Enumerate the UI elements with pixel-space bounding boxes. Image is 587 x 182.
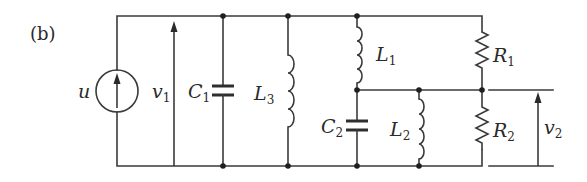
v2-label: v2 bbox=[544, 116, 562, 141]
voltage-arrow-v2 bbox=[535, 92, 542, 166]
junction-dot bbox=[416, 87, 422, 93]
junction-dot bbox=[285, 163, 291, 169]
l3-label: L3 bbox=[253, 82, 274, 107]
arrow-up-icon bbox=[114, 73, 121, 84]
v1-label: v1 bbox=[152, 80, 170, 105]
junction-dot bbox=[416, 163, 422, 169]
l2-label: L2 bbox=[389, 118, 410, 143]
current-source-u bbox=[96, 70, 138, 112]
arrow-up-icon bbox=[535, 92, 542, 103]
inductor-l1 bbox=[357, 16, 362, 90]
c2-label: C2 bbox=[321, 115, 343, 140]
r2-label: R2 bbox=[492, 119, 515, 144]
capacitor-c1 bbox=[212, 16, 234, 166]
resistor-r1 bbox=[476, 32, 488, 90]
top-rail bbox=[117, 16, 482, 70]
junction-dot bbox=[479, 87, 485, 93]
junction-dot bbox=[285, 13, 291, 19]
junction-dot bbox=[220, 163, 226, 169]
inductor-l2 bbox=[419, 90, 424, 166]
junction-dot bbox=[354, 13, 360, 19]
junction-dot bbox=[354, 163, 360, 169]
bottom-rail bbox=[117, 112, 482, 166]
voltage-arrow-v1 bbox=[171, 21, 178, 166]
c1-label: C1 bbox=[188, 80, 210, 105]
capacitor-c2 bbox=[346, 90, 368, 166]
junction-dot bbox=[354, 87, 360, 93]
arrow-up-icon bbox=[171, 21, 178, 32]
l1-label: L1 bbox=[375, 43, 396, 68]
panel-label: (b) bbox=[30, 23, 56, 44]
circuit-diagram: (b) u v1 C1 L3 bbox=[0, 0, 587, 182]
resistor-r2 bbox=[476, 90, 488, 150]
source-label: u bbox=[78, 80, 90, 102]
inductor-l3 bbox=[288, 16, 294, 166]
junction-dot bbox=[220, 13, 226, 19]
r1-label: R1 bbox=[492, 44, 515, 69]
